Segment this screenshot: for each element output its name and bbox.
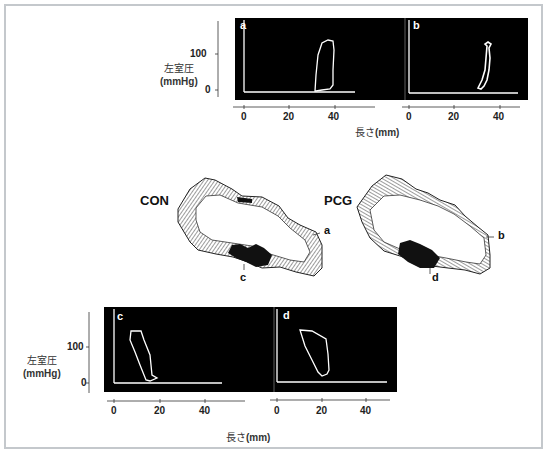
pcg-wall-motion-diagram <box>357 175 490 274</box>
bottom-d-x-tick-20: 20 <box>316 405 327 416</box>
top-a-x-tick-40: 40 <box>328 111 339 122</box>
marker-a-label: a <box>324 224 330 236</box>
pcg-label: PCG <box>324 193 352 208</box>
panel-label-c: c <box>117 310 123 322</box>
marker-c-label: c <box>240 271 246 283</box>
x-axis-unit: (mm) <box>375 127 399 138</box>
con-label: CON <box>140 193 169 208</box>
top-row-plots <box>215 18 528 109</box>
top-b-x-tick-0: 0 <box>406 111 412 122</box>
panel-label-d: d <box>283 309 290 321</box>
top-y-tick-100: 100 <box>190 48 207 59</box>
y-axis-title: 左室圧 <box>160 62 198 75</box>
top-a-x-tick-0: 0 <box>241 111 247 122</box>
bottom-x-axis-label: 長さ(mm) <box>226 429 270 444</box>
bottom-y-tick-100: 100 <box>67 341 84 352</box>
bottom-row-plots <box>86 307 397 403</box>
bottom-y-tick-0: 0 <box>81 377 87 388</box>
bottom-c-x-tick-0: 0 <box>111 405 117 416</box>
x-axis-unit: (mm) <box>246 432 270 443</box>
top-b-x-tick-40: 40 <box>493 111 504 122</box>
bottom-y-axis-label: 左室圧 (mmHg) <box>23 354 61 380</box>
x-axis-title: 長さ <box>226 432 246 443</box>
panel-label-a: a <box>240 19 246 31</box>
top-y-axis-label: 左室圧 (mmHg) <box>160 62 198 88</box>
y-axis-unit: (mmHg) <box>23 367 61 380</box>
bottom-c-x-tick-40: 40 <box>199 405 210 416</box>
top-y-tick-0: 0 <box>205 84 211 95</box>
panel-label-b: b <box>413 19 420 31</box>
marker-b-label: b <box>498 229 505 241</box>
marker-d-label: d <box>432 271 439 283</box>
bottom-c-x-tick-20: 20 <box>154 405 165 416</box>
bottom-d-x-tick-40: 40 <box>360 405 371 416</box>
top-a-x-tick-20: 20 <box>283 111 294 122</box>
y-axis-title: 左室圧 <box>23 354 61 367</box>
y-axis-unit: (mmHg) <box>160 75 198 88</box>
top-x-axis-label: 長さ(mm) <box>355 124 399 139</box>
bottom-d-x-tick-0: 0 <box>274 405 280 416</box>
x-axis-title: 長さ <box>355 127 375 138</box>
top-b-x-tick-20: 20 <box>448 111 459 122</box>
con-wall-motion-diagram <box>178 178 322 276</box>
